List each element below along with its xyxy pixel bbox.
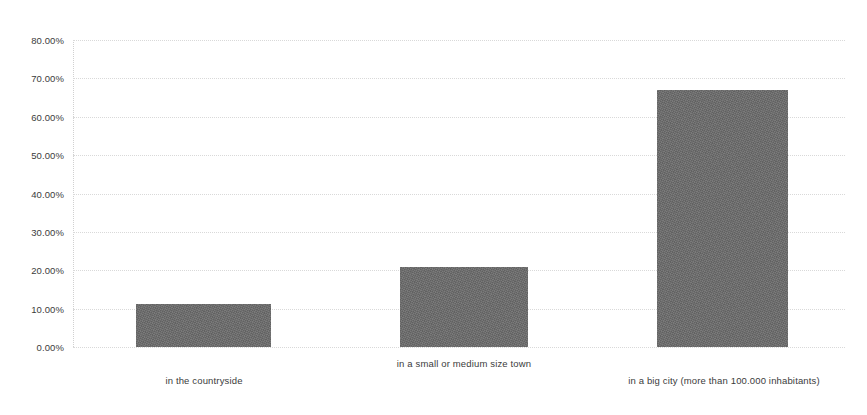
- y-axis-tick-label: 80.00%: [0, 35, 64, 46]
- y-axis-tick-label: 50.00%: [0, 150, 64, 161]
- y-axis-tick-label: 30.00%: [0, 226, 64, 237]
- category-label-big-city: in a big city (more than 100.000 inhabit…: [628, 375, 820, 386]
- y-axis-tick-label: 60.00%: [0, 111, 64, 122]
- category-label-countryside: in the countryside: [165, 375, 242, 386]
- bar-countryside: [136, 304, 271, 347]
- y-axis-tick-label: 70.00%: [0, 73, 64, 84]
- bar-big-city: [657, 90, 788, 347]
- gridline-70: [73, 78, 845, 79]
- plot-area: [73, 40, 845, 347]
- gridline-80: [73, 40, 845, 41]
- bar-chart: 80.00% 70.00% 60.00% 50.00% 40.00% 30.00…: [0, 0, 867, 415]
- y-axis-tick-label: 0.00%: [0, 342, 64, 353]
- bar-small-medium-town: [400, 267, 528, 347]
- y-axis-tick-label: 20.00%: [0, 265, 64, 276]
- gridline-0: [73, 347, 845, 348]
- y-axis-tick-label: 40.00%: [0, 188, 64, 199]
- y-axis-labels: 80.00% 70.00% 60.00% 50.00% 40.00% 30.00…: [0, 40, 64, 347]
- category-label-small-medium-town: in a small or medium size town: [397, 358, 531, 369]
- y-axis-tick-label: 10.00%: [0, 303, 64, 314]
